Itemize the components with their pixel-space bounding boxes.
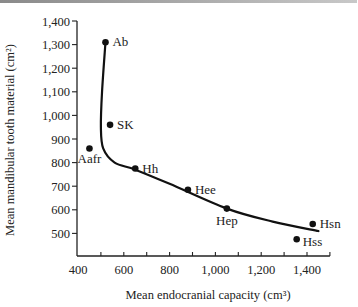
- y-tick-label: 900: [51, 133, 70, 147]
- y-tick-label: 500: [51, 227, 70, 241]
- y-tick-label: 800: [51, 156, 70, 170]
- scatter-chart: 4006008001,0001,2001,4001,4001,3001,2001…: [0, 0, 358, 307]
- y-tick-label: 600: [51, 203, 70, 217]
- y-tick-label: 1,000: [42, 109, 70, 123]
- data-point-hh: [132, 165, 139, 172]
- data-point-hee: [185, 186, 192, 193]
- y-axis-title: Mean mandibular tooth material (cm²): [3, 44, 17, 236]
- data-point-hep: [224, 205, 231, 212]
- point-label-hsn: Hsn: [320, 216, 341, 231]
- x-tick-label: 1,400: [293, 263, 321, 277]
- trend-curve: [101, 42, 319, 231]
- point-label-aafr: Aafr: [78, 151, 102, 166]
- y-tick-label: 700: [51, 180, 70, 194]
- data-points: AbSKAafrHhHeeHepHsnHss: [78, 34, 342, 249]
- x-tick-label: 600: [114, 263, 133, 277]
- data-point-ab: [102, 39, 109, 46]
- y-tick-label: 1,300: [42, 38, 70, 52]
- axes: 4006008001,0001,2001,4001,4001,3001,2001…: [42, 15, 330, 278]
- y-tick-label: 1,200: [42, 62, 70, 76]
- y-tick-label: 1,400: [42, 15, 70, 29]
- point-label-hss: Hss: [303, 234, 323, 249]
- data-point-hsn: [309, 221, 316, 228]
- data-point-sk: [107, 122, 114, 129]
- data-point-hss: [293, 236, 300, 243]
- x-tick-label: 1,000: [201, 263, 229, 277]
- x-axis-title: Mean endocranial capacity (cm³): [125, 288, 290, 302]
- point-label-ab: Ab: [112, 34, 128, 49]
- x-tick-label: 400: [69, 263, 88, 277]
- point-label-sk: SK: [117, 117, 134, 132]
- x-tick-label: 800: [160, 263, 179, 277]
- point-label-hee: Hee: [195, 182, 216, 197]
- point-label-hep: Hep: [216, 213, 238, 228]
- point-label-hh: Hh: [142, 161, 158, 176]
- x-tick-label: 1,200: [247, 263, 275, 277]
- y-tick-label: 1,100: [42, 85, 70, 99]
